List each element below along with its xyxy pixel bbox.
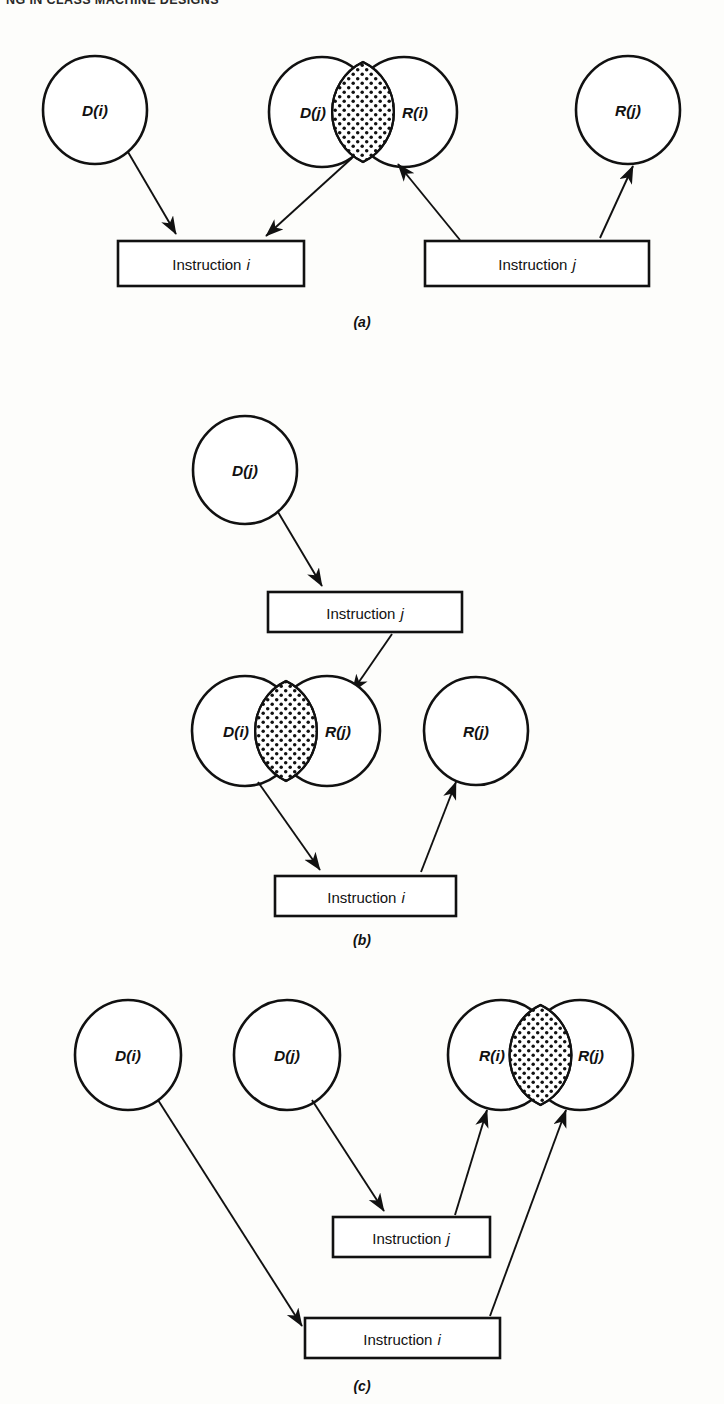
arrow-instruction-i-to-rj — [490, 1110, 566, 1316]
arrow-instruction-j-to-rj — [600, 166, 633, 238]
set-di: D(i) — [75, 1000, 181, 1110]
panel-caption-b: (b) — [353, 932, 371, 948]
set-label: R(j) — [578, 1047, 604, 1064]
panel-a: D(i) D(j) R(i) R(j) — [43, 56, 680, 330]
set-label: D(i) — [82, 102, 108, 119]
set-label: D(j) — [300, 104, 326, 121]
dependency-diagram: D(i) D(j) R(i) R(j) — [0, 0, 724, 1404]
box-label: Instructionj — [498, 256, 576, 273]
set-label: R(i) — [479, 1047, 505, 1064]
panel-caption-a: (a) — [353, 314, 370, 330]
box-instruction-j[interactable]: Instructionj — [333, 1217, 490, 1257]
arrow-di-to-instruction-i — [128, 152, 176, 234]
arrow-instruction-j-to-ri — [398, 164, 460, 240]
arrow-di-to-instruction-i — [258, 782, 320, 870]
arrow-instruction-j-to-rj-overlap — [352, 634, 392, 692]
set-label: D(i) — [223, 723, 249, 740]
set-label: D(i) — [115, 1047, 141, 1064]
panel-c: D(i) D(j) R(i) R(j) — [75, 1000, 633, 1394]
box-label: Instructioni — [363, 1331, 441, 1348]
box-instruction-i[interactable]: Instructioni — [275, 876, 456, 916]
arrow-di-to-instruction-i — [158, 1100, 302, 1326]
set-rj: R(j) — [424, 677, 528, 785]
set-label: R(j) — [463, 723, 489, 740]
arrow-instruction-j-to-ri — [455, 1110, 487, 1215]
set-label: R(j) — [615, 102, 641, 119]
arrow-dj-to-instruction-i — [266, 158, 352, 236]
set-label: D(j) — [274, 1047, 300, 1064]
set-label: R(j) — [325, 723, 351, 740]
set-label: D(j) — [232, 462, 258, 479]
panel-b: D(j) Instructionj D(i) R(j) — [192, 416, 528, 948]
box-instruction-i[interactable]: Instructioni — [305, 1318, 500, 1358]
set-label: R(i) — [402, 104, 428, 121]
box-instruction-j[interactable]: Instructionj — [425, 241, 649, 286]
box-instruction-j[interactable]: Instructionj — [268, 592, 462, 632]
set-di: D(i) — [43, 56, 147, 164]
arrow-instruction-i-to-rj — [421, 782, 456, 872]
set-rj: R(j) — [576, 56, 680, 164]
set-dj: D(j) — [234, 1000, 340, 1110]
arrow-dj-to-instruction-j — [312, 1100, 384, 1211]
panel-caption-c: (c) — [353, 1378, 370, 1394]
box-label: Instructioni — [327, 889, 405, 906]
figure-page: NG IN CLASS MACHINE DESIGNS D(i) — [0, 0, 724, 1404]
set-dj: D(j) — [193, 416, 297, 524]
box-label: Instructioni — [172, 256, 250, 273]
box-label: Instructionj — [326, 605, 404, 622]
arrow-dj-to-instruction-j — [278, 512, 322, 586]
box-instruction-i[interactable]: Instructioni — [118, 241, 304, 286]
box-label: Instructionj — [372, 1230, 450, 1247]
